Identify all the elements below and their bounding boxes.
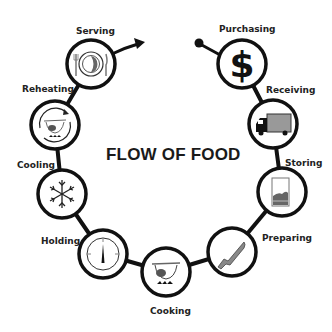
step-cooking[interactable] <box>142 248 190 296</box>
step-cooling[interactable] <box>38 170 86 218</box>
start-dot <box>195 39 223 57</box>
step-holding[interactable] <box>79 230 127 278</box>
end-arrow-icon <box>112 38 145 54</box>
step-label-holding: Holding <box>41 236 80 246</box>
storage-container-icon <box>272 178 289 206</box>
dollar-sign-icon: $ <box>229 44 254 85</box>
step-label-cooling: Cooling <box>17 160 55 170</box>
step-label-receiving: Receiving <box>266 85 315 95</box>
step-label-storing: Storing <box>285 158 322 168</box>
step-receiving[interactable] <box>249 100 297 148</box>
thermometer-gauge-icon <box>87 238 119 270</box>
step-serving[interactable] <box>67 40 115 88</box>
step-purchasing[interactable]: $ <box>218 40 266 88</box>
step-label-purchasing: Purchasing <box>219 24 276 34</box>
step-reheating[interactable] <box>31 101 79 149</box>
diagram-title: FLOW OF FOOD <box>106 145 241 165</box>
step-preparing[interactable] <box>208 228 256 276</box>
step-label-cooking: Cooking <box>150 306 191 316</box>
step-storing[interactable] <box>258 168 306 216</box>
step-label-reheating: Reheating <box>22 84 74 94</box>
step-label-preparing: Preparing <box>262 233 312 243</box>
step-label-serving: Serving <box>76 26 115 36</box>
